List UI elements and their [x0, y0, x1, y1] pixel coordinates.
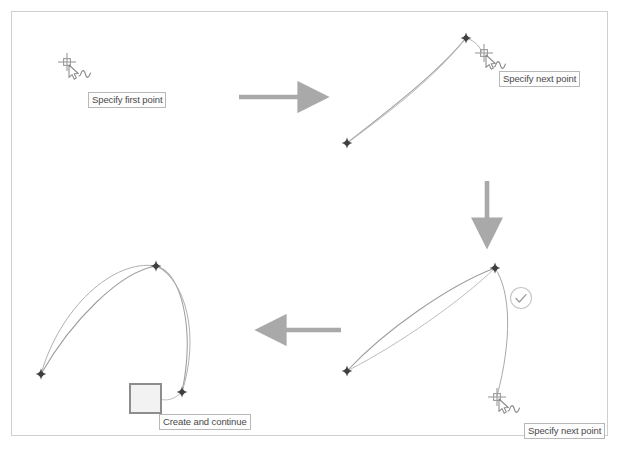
- tooltip-specify-next-point-step2: Specify next point: [499, 71, 580, 87]
- tooltip-specify-next-point-step3: Specify next point: [524, 423, 605, 439]
- diagram-canvas: Specify first point Specify next point S…: [0, 0, 622, 458]
- clipped-footer-text: [14, 449, 574, 458]
- tooltip-create-and-continue: Create and continue: [159, 414, 251, 430]
- create-and-continue-button[interactable]: [129, 383, 162, 414]
- tooltip-specify-first-point: Specify first point: [88, 92, 166, 108]
